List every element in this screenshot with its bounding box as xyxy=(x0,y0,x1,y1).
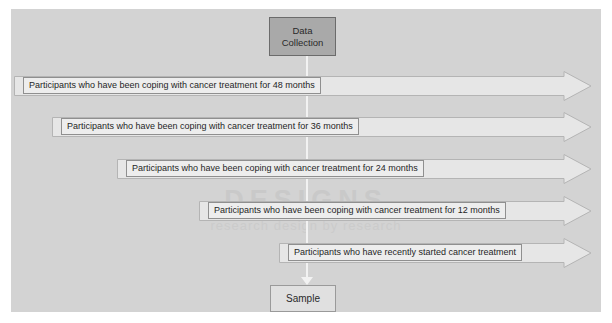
cohort-label: Participants who have been coping with c… xyxy=(126,160,424,177)
node-sample-label: Sample xyxy=(286,293,320,305)
diagram-plate: DESIGNS research design by research Data… xyxy=(11,9,601,312)
cohort-arrow-row[interactable]: Participants who have been coping with c… xyxy=(117,154,592,184)
cohort-label: Participants who have been coping with c… xyxy=(23,77,321,94)
cohort-label: Participants who have recently started c… xyxy=(288,244,522,261)
connector-arrowhead-icon xyxy=(301,277,313,285)
cohort-arrow-row[interactable]: Participants who have been coping with c… xyxy=(14,71,592,101)
cohort-label: Participants who have been coping with c… xyxy=(61,118,359,135)
cohort-label: Participants who have been coping with c… xyxy=(208,202,506,219)
cohort-arrow-row[interactable]: Participants who have been coping with c… xyxy=(199,196,592,226)
node-data-collection[interactable]: Data Collection xyxy=(269,17,336,56)
node-data-collection-text: Data Collection xyxy=(282,25,324,49)
cohort-arrow-row[interactable]: Participants who have recently started c… xyxy=(279,238,592,268)
node-data-collection-line2: Collection xyxy=(282,37,324,49)
diagram-canvas: DESIGNS research design by research Data… xyxy=(0,0,612,323)
node-data-collection-line1: Data xyxy=(282,25,324,37)
cohort-arrow-row[interactable]: Participants who have been coping with c… xyxy=(52,112,592,142)
node-sample[interactable]: Sample xyxy=(270,285,336,312)
